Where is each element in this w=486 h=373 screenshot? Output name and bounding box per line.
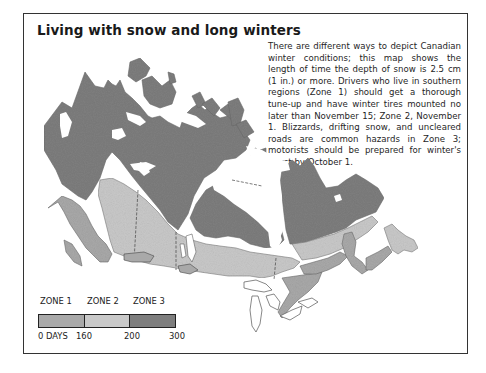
legend-swatch-zone-1 [39, 315, 84, 327]
legend-tick-0: 0 DAYS [38, 331, 68, 341]
legend-tick-200: 200 [124, 331, 140, 341]
zone-3-region [44, 58, 384, 248]
legend-color-bar [38, 314, 176, 328]
legend-label-zone-1: ZONE 1 [40, 296, 72, 306]
legend-label-zone-2: ZONE 2 [87, 296, 119, 306]
legend-swatch-zone-3 [129, 315, 175, 327]
legend-label-zone-3: ZONE 3 [133, 296, 165, 306]
map-legend: ZONE 1 ZONE 2 ZONE 3 0 DAYS 160 200 300 [38, 296, 188, 340]
legend-swatch-zone-2 [84, 315, 130, 327]
legend-tick-300: 300 [169, 331, 185, 341]
legend-tick-160: 160 [76, 331, 92, 341]
